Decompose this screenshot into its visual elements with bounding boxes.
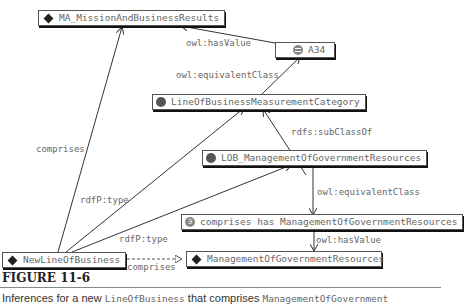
edge-label-equivalent-class: owl:equivalentClass bbox=[176, 70, 279, 80]
edge-label-equivalent-class-2: owl:equivalentClass bbox=[317, 187, 420, 197]
class-circle-icon bbox=[156, 97, 166, 107]
caption-code-1: LineOfBusiness bbox=[105, 293, 185, 304]
edge-label-has-value-2: owl:hasValue bbox=[316, 235, 381, 245]
node-new-line-of-business[interactable]: NewLineOfBusiness bbox=[2, 252, 126, 268]
caption-code-2: ManagementOfGovernment bbox=[262, 293, 388, 304]
class-circle-icon bbox=[206, 153, 216, 163]
caption-text-2: that comprises bbox=[185, 292, 263, 304]
individual-diamond-icon bbox=[8, 255, 18, 265]
node-label: comprises has ManagementOfGovernmentReso… bbox=[200, 215, 457, 229]
node-label: LOB_ManagementOfGovernmentResources bbox=[221, 151, 421, 165]
node-label: MA_MissionAndBusinessResults bbox=[59, 11, 219, 25]
restriction-circle-icon: ∋ bbox=[185, 217, 195, 227]
edge-label-subclass-of: rdfs:subClassOf bbox=[291, 127, 372, 137]
node-line-of-business-measurement-category[interactable]: LineOfBusinessMeasurementCategory bbox=[152, 94, 366, 110]
node-label: A34 bbox=[308, 43, 325, 57]
edge-label-rdfp-type: rdfP:type bbox=[80, 195, 129, 205]
edge-label-rdfp-type-2: rdfP:type bbox=[119, 234, 168, 244]
node-label: LineOfBusinessMeasurementCategory bbox=[171, 95, 360, 109]
edge-label-comprises-2: comprises bbox=[127, 262, 176, 272]
node-lob-management-of-government-resources[interactable]: LOB_ManagementOfGovernmentResources bbox=[202, 150, 427, 166]
equivalent-class-circle-icon bbox=[293, 45, 303, 55]
node-label: ManagementOfGovernmentResources bbox=[207, 252, 384, 266]
caption-divider bbox=[0, 287, 441, 288]
edge-label-comprises: comprises bbox=[36, 144, 85, 154]
individual-diamond-icon bbox=[192, 254, 202, 264]
figure-caption: Inferences for a new LineOfBusiness that… bbox=[2, 292, 388, 304]
individual-diamond-icon bbox=[44, 13, 54, 23]
node-label: NewLineOfBusiness bbox=[23, 253, 120, 267]
node-mission-and-business-results[interactable]: MA_MissionAndBusinessResults bbox=[38, 10, 225, 26]
edge-label-has-value: owl:hasValue bbox=[186, 38, 251, 48]
node-comprises-restriction[interactable]: ∋ comprises has ManagementOfGovernmentRe… bbox=[181, 214, 463, 230]
caption-text-1: Inferences for a new bbox=[2, 292, 105, 304]
node-management-of-government-resources[interactable]: ManagementOfGovernmentResources bbox=[186, 251, 382, 267]
node-a34[interactable]: A34 bbox=[275, 42, 335, 58]
figure-title: FIGURE 11-6 bbox=[2, 271, 90, 285]
